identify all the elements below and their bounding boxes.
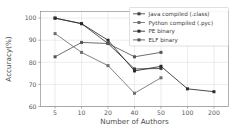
- y-axis-label: Accuracy(%): [4, 36, 13, 81]
- data-point-marker: [186, 87, 189, 90]
- legend-label: Python compiled (.pyc): [149, 20, 214, 27]
- legend-marker-swatch: [138, 38, 141, 41]
- x-tick-label: 20: [104, 109, 112, 116]
- data-point-marker: [80, 51, 83, 54]
- data-point-marker: [80, 22, 83, 25]
- x-tick-label: 10: [78, 109, 86, 116]
- data-point-marker: [133, 69, 136, 72]
- legend-label: ELF binary: [149, 37, 179, 44]
- x-axis-label: Number of Authors: [100, 117, 169, 126]
- x-tick-label: 200: [208, 109, 220, 116]
- x-tick-label: 40: [131, 109, 139, 116]
- legend-marker-swatch: [138, 30, 141, 33]
- data-point-marker: [133, 92, 136, 95]
- legend-label: Java compiled (.class): [148, 11, 210, 18]
- y-tick-label: 90: [29, 36, 37, 43]
- y-tick-label: 60: [29, 103, 37, 110]
- legend-marker-swatch: [138, 21, 141, 24]
- x-tick-label: 50: [157, 109, 165, 116]
- data-point-marker: [159, 51, 162, 54]
- line-chart-plot: 60708090100 510204050100200 Accuracy(%) …: [0, 0, 233, 135]
- data-point-marker: [159, 65, 162, 68]
- data-point-marker: [159, 76, 162, 79]
- data-point-marker: [54, 17, 57, 20]
- data-point-marker: [54, 55, 57, 58]
- data-point-marker: [107, 39, 110, 42]
- chart-figure: 60708090100 510204050100200 Accuracy(%) …: [0, 0, 233, 135]
- data-point-marker: [212, 90, 215, 93]
- data-point-marker: [107, 64, 110, 67]
- y-tick-label: 70: [29, 81, 37, 88]
- x-tick-label: 100: [182, 109, 194, 116]
- x-tick-label: 5: [53, 109, 57, 116]
- data-point-marker: [133, 55, 136, 58]
- x-axis-tick-labels: 510204050100200: [53, 109, 220, 116]
- legend-label: PE binary: [149, 28, 176, 35]
- chart-legend: Java compiled (.class)Python compiled (.…: [130, 8, 229, 47]
- data-point-marker: [54, 32, 57, 35]
- legend-marker-swatch: [138, 12, 141, 15]
- data-point-marker: [107, 42, 110, 45]
- y-axis-tick-labels: 60708090100: [25, 14, 37, 109]
- y-tick-label: 100: [25, 14, 37, 21]
- data-point-marker: [80, 41, 83, 44]
- y-tick-label: 80: [29, 59, 37, 66]
